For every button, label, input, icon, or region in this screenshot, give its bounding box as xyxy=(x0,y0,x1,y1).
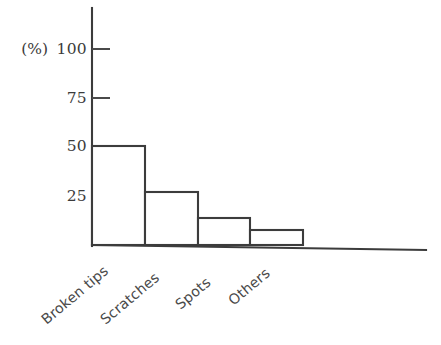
bar-others[interactable] xyxy=(250,230,303,245)
y-tick-label-50: 50 xyxy=(67,137,87,155)
pareto-bar-chart: (%) 100 75 50 25 Broken tips Scratches S… xyxy=(0,0,441,345)
bar-scratches[interactable] xyxy=(145,192,198,245)
bar-broken-tips[interactable] xyxy=(92,146,145,245)
y-tick-label-100: 100 xyxy=(57,40,88,58)
chart-canvas: (%) 100 75 50 25 Broken tips Scratches S… xyxy=(0,0,441,345)
y-tick-label-75: 75 xyxy=(67,89,87,107)
y-axis-unit-label: (%) xyxy=(21,40,48,58)
bar-spots[interactable] xyxy=(198,218,250,245)
y-tick-label-25: 25 xyxy=(67,187,87,205)
